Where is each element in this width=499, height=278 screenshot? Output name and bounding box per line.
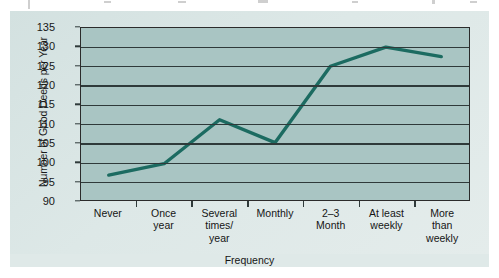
y-tick-mark — [75, 26, 80, 27]
plot-area — [80, 27, 470, 201]
x-tick-mark — [303, 201, 304, 207]
data-line-svg — [81, 28, 469, 200]
x-tick-mark — [247, 201, 248, 207]
y-tick-mark — [75, 65, 80, 66]
scan-mark — [470, 1, 477, 3]
y-tick-label: 115 — [15, 98, 55, 110]
gridline — [81, 163, 469, 164]
chart-screenshot: Number of Good Deeds per Year Frequency … — [0, 0, 499, 278]
y-tick-mark — [75, 162, 80, 163]
y-tick-mark — [75, 200, 80, 201]
x-tick-mark — [414, 201, 415, 207]
scan-mark — [104, 1, 111, 3]
y-tick-mark — [75, 104, 80, 105]
x-tick-mark — [191, 201, 192, 207]
y-tick-mark — [75, 123, 80, 124]
y-tick-label: 105 — [15, 137, 55, 149]
y-tick-mark — [75, 84, 80, 85]
y-tick-label: 110 — [15, 118, 55, 130]
y-tick-mark — [75, 142, 80, 143]
scan-artifact-strip — [0, 0, 499, 11]
y-tick-label: 95 — [15, 176, 55, 188]
gridline — [81, 143, 469, 144]
scan-mark — [432, 0, 435, 4]
scan-mark — [178, 1, 186, 3]
gridline — [81, 47, 469, 48]
x-tick-mark — [136, 201, 137, 207]
y-tick-label: 130 — [15, 40, 55, 52]
y-tick-label: 120 — [15, 79, 55, 91]
scan-mark — [28, 0, 30, 9]
gridline — [81, 124, 469, 125]
x-category-label: More than weekly — [402, 207, 482, 244]
y-tick-label: 125 — [15, 60, 55, 72]
figure-background: Number of Good Deeds per Year Frequency … — [10, 11, 489, 267]
y-tick-label: 135 — [15, 21, 55, 33]
gridline — [81, 105, 469, 106]
scan-mark — [352, 1, 358, 3]
scan-mark — [258, 0, 268, 3]
y-tick-label: 100 — [15, 156, 55, 168]
y-tick-mark — [75, 46, 80, 47]
gridline — [81, 182, 469, 183]
x-axis-title: Frequency — [10, 254, 489, 266]
y-tick-label: 90 — [15, 195, 55, 207]
gridline — [81, 66, 469, 67]
y-tick-mark — [75, 181, 80, 182]
x-tick-mark — [359, 201, 360, 207]
gridline — [81, 85, 469, 86]
